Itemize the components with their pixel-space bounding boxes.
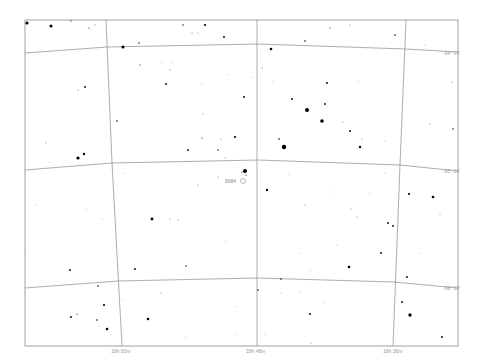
star [334,192,335,193]
star [262,68,263,69]
star [46,143,47,144]
star [76,313,77,314]
star [185,265,186,266]
dec-label-66: -66° 00' [443,285,460,291]
star [84,86,86,88]
dec-line-2 [25,278,458,288]
star [50,25,53,28]
star [299,253,300,254]
dec-label-65: -65° 00' [443,168,460,174]
star [385,173,386,174]
star [392,225,394,227]
star [192,33,193,34]
star [134,268,136,270]
star [320,119,324,123]
star [25,21,28,24]
star [324,302,325,303]
star [78,90,79,91]
star [198,33,199,34]
star [187,149,189,151]
star [362,139,363,140]
star [291,98,293,100]
star [70,20,71,21]
star [125,173,126,174]
star [218,177,219,178]
star [430,124,431,125]
star [70,316,72,318]
star [358,82,359,83]
ra-line-2 [393,20,406,346]
star [103,304,105,306]
star [406,276,408,278]
star [452,128,453,129]
star [282,145,286,149]
star [273,82,274,83]
star [99,326,100,327]
star [217,149,218,150]
star [172,62,173,63]
star [83,153,85,155]
star [265,334,266,335]
star [116,120,118,122]
star [50,162,51,163]
star [309,313,311,315]
star [96,319,98,321]
star [202,84,203,85]
star [419,253,420,254]
star [88,27,89,28]
star [243,96,245,98]
star [76,156,79,159]
star [394,34,396,36]
star [86,209,87,210]
star [102,219,103,220]
star [203,114,204,115]
star [324,103,326,105]
star [162,62,163,63]
star [106,328,109,331]
ra-label-1848: 18h 48m [246,348,265,354]
star [441,336,443,338]
star [432,196,435,199]
star [121,45,124,48]
star [243,169,247,173]
star [221,139,222,140]
star [235,307,236,308]
star [201,137,202,138]
ngc-6684-marker-icon [240,178,246,184]
star [343,122,344,123]
ra-label-1836: 18h 36m [383,348,402,354]
star [257,289,259,291]
star [204,24,206,26]
star [280,278,282,280]
star [401,301,403,303]
star [241,171,242,172]
star [26,251,27,252]
star [147,318,150,321]
star [349,130,351,132]
star [370,194,371,195]
dec-line-0 [25,44,458,53]
star [234,136,236,138]
star [95,25,96,26]
star [186,338,187,339]
star [182,24,183,25]
dec-label-64: -64° 00' [443,50,460,56]
ngc-6684-label: 6684 [225,178,236,184]
star [69,269,71,271]
star [266,189,268,191]
star [305,205,306,206]
star [305,108,309,112]
star [225,158,226,159]
star [337,245,338,246]
star [304,40,306,42]
star [387,222,389,224]
star [289,174,290,175]
star [350,25,351,26]
star [440,214,441,215]
star [380,252,382,254]
ra-line-0 [106,20,122,346]
star [452,82,453,83]
star [278,138,280,140]
star [326,82,328,84]
star [198,185,199,186]
